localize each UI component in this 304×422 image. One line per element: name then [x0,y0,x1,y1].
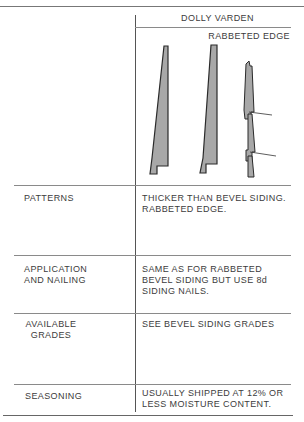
header-rule [135,27,291,28]
row-rule [14,313,291,314]
single-board-profile-icon [150,46,168,174]
top-rule [0,6,304,7]
row-rule [14,255,291,256]
row-label-patterns: PATTERNS [24,193,74,204]
row-value-seasoning: USUALLY SHIPPED AT 12% OR LESS MOISTURE … [142,388,283,410]
row-value-grades: SEE BEVEL SIDING GRADES [142,319,274,330]
column-title: DOLLY VARDEN [140,13,295,24]
row-rule [14,384,291,385]
column-divider [135,15,136,412]
siding-profile-diagram [140,40,300,180]
bottom-rule [3,415,293,416]
single-board-profile-icon [200,45,217,173]
row-rule [14,185,291,186]
row-label-seasoning: SEASONING [25,391,82,402]
row-value-application: SAME AS FOR RABBETED BEVEL SIDING BUT US… [142,264,267,297]
row-label-grades: AVAILABLE GRADES [20,319,82,341]
row-value-patterns: THICKER THAN BEVEL SIDING. RABBETED EDGE… [142,193,286,215]
overlapping-boards-icon [244,61,276,177]
row-label-application: APPLICATION AND NAILING [24,264,87,286]
